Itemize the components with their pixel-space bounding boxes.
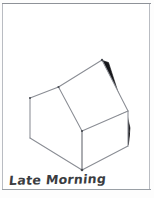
vertex-left-eave bbox=[29, 97, 31, 99]
sketch-card: Late Morning bbox=[0, 0, 154, 198]
vertex-front-corner bbox=[81, 130, 83, 132]
vertex-ridge-peak bbox=[101, 59, 103, 61]
house-drawing bbox=[0, 0, 154, 198]
caption-label: Late Morning bbox=[8, 169, 142, 190]
vertex-left-gable bbox=[57, 86, 59, 88]
